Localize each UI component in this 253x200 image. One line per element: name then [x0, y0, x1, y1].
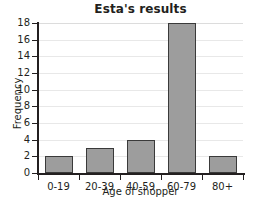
- y-axis-tick: [32, 140, 37, 141]
- x-axis-tick: [243, 175, 244, 180]
- x-axis-tick: [38, 175, 39, 180]
- y-axis-tick: [32, 173, 37, 174]
- y-axis-tick-label: 6: [0, 118, 30, 128]
- gridline: [38, 106, 243, 107]
- y-axis-line: [37, 22, 39, 174]
- x-axis-tick: [161, 175, 162, 180]
- y-axis-tick: [32, 90, 37, 91]
- y-axis-tick: [32, 106, 37, 107]
- y-axis-tick-label: 14: [0, 51, 30, 61]
- y-axis-tick-label: 0: [0, 168, 30, 178]
- bar: [209, 156, 237, 173]
- y-axis-tick-label: 10: [0, 85, 30, 95]
- y-axis-tick: [32, 73, 37, 74]
- bar-chart: Esta's results Frequency Age of shopper …: [0, 0, 253, 200]
- y-axis-tick: [32, 23, 37, 24]
- bar: [127, 140, 155, 173]
- gridline: [38, 40, 243, 41]
- x-axis-tick: [120, 175, 121, 180]
- y-axis-tick: [32, 156, 37, 157]
- x-axis-tick: [202, 175, 203, 180]
- y-axis-tick: [32, 56, 37, 57]
- x-axis-line: [37, 173, 245, 175]
- bar: [45, 156, 73, 173]
- y-axis-tick-label: 16: [0, 35, 30, 45]
- y-axis-tick-label: 8: [0, 101, 30, 111]
- y-axis-tick-label: 18: [0, 18, 30, 28]
- gridline: [38, 73, 243, 74]
- gridline: [38, 90, 243, 91]
- y-axis-tick-label: 2: [0, 151, 30, 161]
- y-axis-tick-label: 12: [0, 68, 30, 78]
- gridline: [38, 56, 243, 57]
- bar: [86, 148, 114, 173]
- x-axis-tick: [79, 175, 80, 180]
- x-axis-tick-label: 80+: [193, 181, 253, 192]
- plot-area: [38, 23, 243, 173]
- chart-title: Esta's results: [38, 2, 243, 16]
- bar: [168, 23, 196, 173]
- y-axis-tick: [32, 40, 37, 41]
- y-axis-tick: [32, 123, 37, 124]
- gridline: [38, 123, 243, 124]
- gridline: [38, 23, 243, 24]
- y-axis-tick-label: 4: [0, 135, 30, 145]
